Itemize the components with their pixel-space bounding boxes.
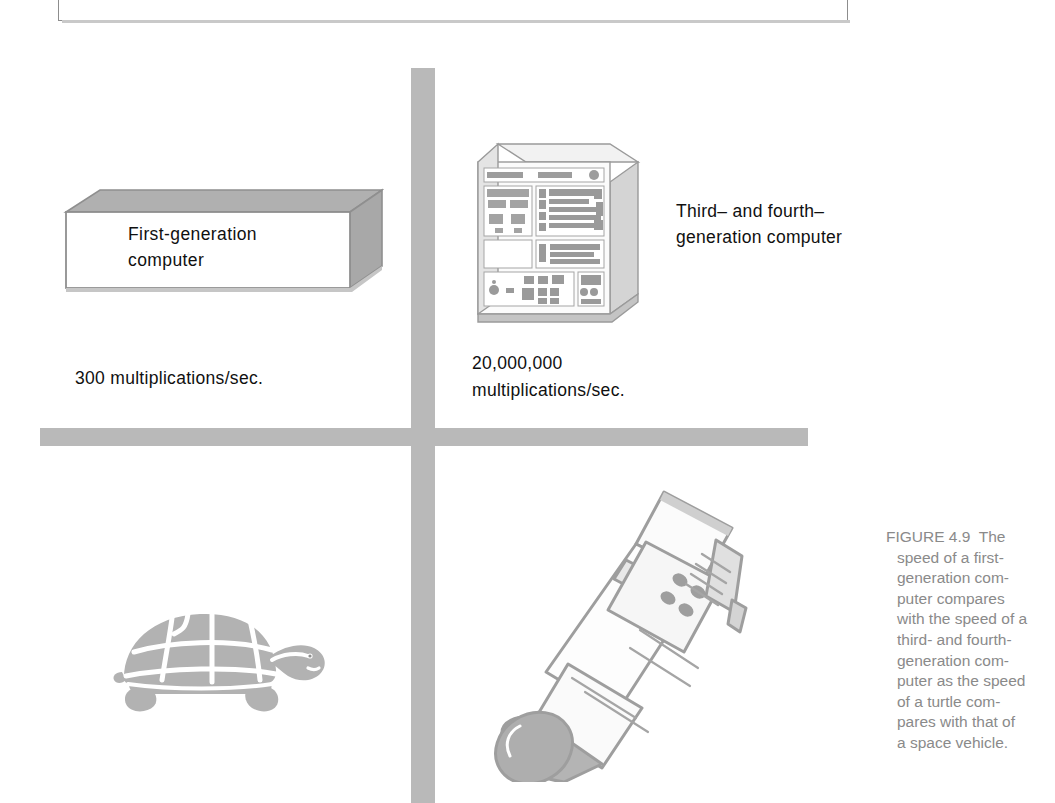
third-fourth-generation-label: Third– and fourth– generation computer: [676, 198, 926, 251]
caption-line-0: FIGURE 4.9 The: [886, 527, 1048, 548]
modern-speed-line-2: multiplications/sec.: [472, 377, 712, 404]
caption-line-5: third- and fourth-: [886, 630, 1048, 651]
third-fourth-label-line-2: generation computer: [676, 224, 926, 250]
page-border-box-shadow: [62, 20, 850, 23]
mainframe-computer-icon: [470, 142, 642, 332]
turtle-icon: [112, 584, 344, 726]
caption-line-10: a space vehicle.: [886, 733, 1048, 754]
page-border-box: [58, 0, 848, 21]
third-fourth-generation-speed-label: 20,000,000 multiplications/sec.: [472, 350, 712, 403]
caption-line-7: puter as the speed: [886, 671, 1048, 692]
quadrant-divider-horizontal: [40, 428, 808, 446]
caption-line-2: generation com-: [886, 568, 1048, 589]
caption-line-4: with the speed of a: [886, 609, 1048, 630]
figure-caption: FIGURE 4.9 The speed of a first- generat…: [886, 527, 1048, 754]
caption-line-3: puter compares: [886, 589, 1048, 610]
first-generation-label-line-2: computer: [128, 248, 368, 274]
figure-page: First-generation computer 300 multiplica…: [0, 0, 1055, 803]
caption-line-8: of a turtle com-: [886, 692, 1048, 713]
third-fourth-label-line-1: Third– and fourth–: [676, 198, 926, 224]
space-vehicle-icon: [440, 482, 770, 782]
first-generation-speed-label: 300 multiplications/sec.: [75, 365, 263, 391]
modern-speed-line-1: 20,000,000: [472, 350, 712, 377]
caption-line-1: speed of a first-: [886, 548, 1048, 569]
caption-line-6: generation com-: [886, 651, 1048, 672]
first-generation-label-line-1: First-generation: [128, 222, 368, 248]
first-generation-computer-label: First-generation computer: [128, 222, 368, 274]
caption-line-9: pares with that of: [886, 712, 1048, 733]
